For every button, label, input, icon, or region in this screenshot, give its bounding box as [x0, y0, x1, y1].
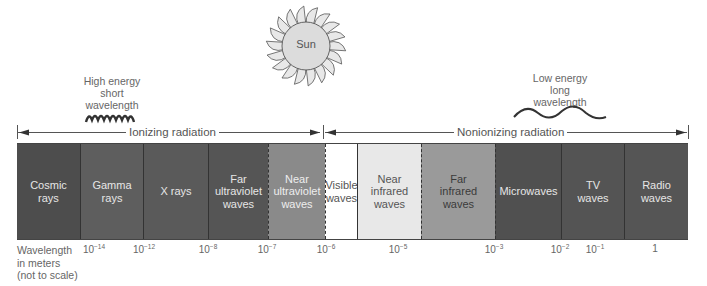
spectrum-segment: Farinfraredwaves [421, 144, 495, 239]
high-energy-note: High energy short wavelength [72, 75, 152, 111]
segment-label-line: Radio [641, 179, 672, 192]
wavelength-tick-label: 10−14 [83, 243, 105, 255]
segment-label: Cosmicrays [30, 179, 67, 204]
spectrum-segment: Microwaves [495, 144, 561, 239]
segment-label: TVwaves [577, 179, 608, 204]
axis-label-line: (not to scale) [17, 269, 78, 282]
spectrum-segment: Radiowaves [624, 144, 688, 239]
segment-label-line: waves [440, 198, 477, 211]
axis-label-line: Wavelength [17, 244, 78, 257]
segment-label-line: waves [371, 198, 408, 211]
arrow-left-icon [326, 129, 336, 136]
low-energy-line: Low energy [520, 72, 600, 84]
segment-label-line: Gamma [92, 179, 131, 192]
segment-label-line: Far [440, 173, 477, 186]
spectrum-segment: Cosmicrays [17, 144, 80, 239]
short-wave-icon [84, 112, 136, 124]
segment-label: Radiowaves [641, 179, 672, 204]
arrow-right-icon [310, 129, 320, 136]
range-tick-middle [323, 125, 324, 139]
segment-label: Nearultravioletwaves [273, 173, 320, 211]
wavelength-tick-label: 10−8 [199, 243, 218, 255]
low-energy-line: long [520, 84, 600, 96]
wavelength-tick-label: 10−12 [133, 243, 155, 255]
arrow-left-icon [19, 129, 29, 136]
wavelength-tick-label: 10−7 [258, 243, 277, 255]
spectrum-segment: Nearultravioletwaves [268, 144, 325, 239]
segment-label-line: waves [215, 198, 262, 211]
segment-label-line: rays [30, 192, 67, 205]
segment-label-line: waves [577, 192, 608, 205]
segment-label-line: Microwaves [499, 185, 557, 198]
segment-label: Microwaves [499, 185, 557, 198]
sun-label: Sun [262, 38, 350, 50]
high-energy-line: wavelength [72, 99, 152, 111]
segment-label-line: infrared [440, 185, 477, 198]
segment-label: Visiblewaves [325, 179, 357, 204]
spectrum-segment: Visiblewaves [325, 144, 357, 239]
segment-label: Gammarays [92, 179, 131, 204]
range-tick-right [688, 125, 689, 139]
wavelength-axis-label: Wavelength in meters (not to scale) [17, 244, 78, 282]
segment-label-line: Near [273, 173, 320, 186]
segment-label-line: waves [325, 192, 357, 205]
spectrum-segment: Nearinfraredwaves [357, 144, 421, 239]
segment-label-line: X rays [160, 185, 191, 198]
segment-label: Farinfraredwaves [440, 173, 477, 211]
arrow-right-icon [676, 129, 686, 136]
ionizing-label: Ionizing radiation [126, 125, 219, 139]
segment-label-line: waves [641, 192, 672, 205]
wavelength-tick-label: 10−5 [389, 243, 408, 255]
wavelength-tick-label: 10−6 [317, 243, 336, 255]
wavelength-tick-label: 10−2 [551, 243, 570, 255]
segment-label: Nearinfraredwaves [371, 173, 408, 211]
wavelength-tick-label: 10−3 [485, 243, 504, 255]
segment-label-line: ultraviolet [273, 185, 320, 198]
segment-label-line: rays [92, 192, 131, 205]
segment-label: X rays [160, 185, 191, 198]
nonionizing-label: Nonionizing radiation [454, 125, 567, 139]
high-energy-line: High energy [72, 75, 152, 87]
axis-label-line: in meters [17, 257, 78, 270]
low-energy-note: Low energy long wavelength [520, 72, 600, 108]
segment-label-line: infrared [371, 185, 408, 198]
segment-label-line: waves [273, 198, 320, 211]
wavelength-tick-label: 1 [652, 243, 658, 254]
segment-label-line: Near [371, 173, 408, 186]
segment-label: Farultravioletwaves [215, 173, 262, 211]
segment-label-line: Cosmic [30, 179, 67, 192]
segment-label-line: Far [215, 173, 262, 186]
long-wave-icon [512, 105, 608, 121]
spectrum-segment: Gammarays [80, 144, 143, 239]
spectrum-segment: Farultravioletwaves [208, 144, 268, 239]
segment-label-line: Visible [325, 179, 357, 192]
spectrum-segment: TVwaves [561, 144, 624, 239]
spectrum-segment: X rays [143, 144, 208, 239]
high-energy-line: short [72, 87, 152, 99]
segment-label-line: ultraviolet [215, 185, 262, 198]
segment-label-line: TV [577, 179, 608, 192]
spectrum-bar: CosmicraysGammaraysX raysFarultravioletw… [17, 143, 688, 240]
wavelength-tick-label: 10−1 [586, 243, 605, 255]
